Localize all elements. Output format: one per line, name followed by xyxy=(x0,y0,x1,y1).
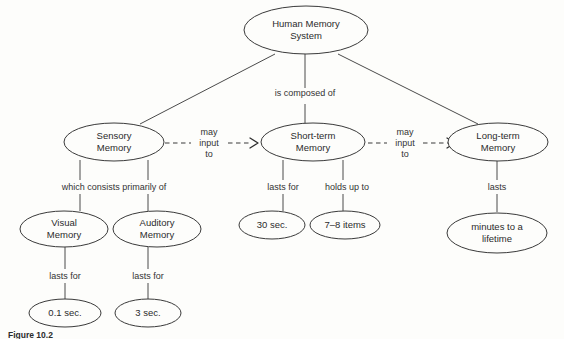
node-sensory-memory[interactable]: Sensory Memory xyxy=(64,123,164,161)
svg-text:7–8 items: 7–8 items xyxy=(324,219,365,230)
node-auditory-duration[interactable]: 3 sec. xyxy=(115,299,181,327)
svg-text:Memory: Memory xyxy=(296,142,331,153)
arrowhead-to-shortterm xyxy=(250,138,258,148)
svg-text:Short-term: Short-term xyxy=(291,130,336,141)
svg-text:may: may xyxy=(200,127,218,137)
svg-text:input: input xyxy=(395,138,415,148)
svg-text:Auditory: Auditory xyxy=(140,217,175,228)
svg-text:3 sec.: 3 sec. xyxy=(135,307,160,318)
figure-caption: Figure 10.2 xyxy=(8,330,53,339)
svg-text:Long-term: Long-term xyxy=(476,130,519,141)
svg-text:Memory: Memory xyxy=(97,142,132,153)
svg-text:to: to xyxy=(401,149,409,159)
svg-text:Human Memory: Human Memory xyxy=(272,18,340,29)
node-visual-memory[interactable]: Visual Memory xyxy=(20,211,108,247)
svg-text:Memory: Memory xyxy=(481,142,516,153)
svg-text:System: System xyxy=(290,30,322,41)
svg-text:0.1 sec.: 0.1 sec. xyxy=(48,307,81,318)
node-auditory-memory[interactable]: Auditory Memory xyxy=(113,211,201,247)
node-human-memory-system[interactable]: Human Memory System xyxy=(244,6,368,54)
svg-text:to: to xyxy=(205,149,213,159)
edge-label-lasts-for-short-term: lasts for xyxy=(267,182,299,192)
edge-label-lasts-for-auditory: lasts for xyxy=(132,271,164,281)
svg-text:may: may xyxy=(396,127,414,137)
edge-label-is-composed-of: is composed of xyxy=(275,88,336,98)
svg-text:Memory: Memory xyxy=(140,229,175,240)
svg-text:lifetime: lifetime xyxy=(482,233,512,244)
svg-text:30 sec.: 30 sec. xyxy=(257,219,288,230)
svg-text:Visual: Visual xyxy=(51,217,77,228)
edge-label-lasts-long-term: lasts xyxy=(488,182,507,192)
edge-label-may-input-to-2: may input to xyxy=(395,127,415,159)
edge-label-may-input-to-1: may input to xyxy=(199,127,219,159)
concept-map-figure: is composed of which consists primarily … xyxy=(0,0,564,339)
node-long-term-memory[interactable]: Long-term Memory xyxy=(448,123,548,161)
svg-text:minutes to a: minutes to a xyxy=(471,221,523,232)
svg-text:Memory: Memory xyxy=(47,229,82,240)
svg-text:Sensory: Sensory xyxy=(97,130,132,141)
edge-label-lasts-for-visual: lasts for xyxy=(49,271,81,281)
node-long-term-duration[interactable]: minutes to a lifetime xyxy=(447,213,547,253)
node-visual-duration[interactable]: 0.1 sec. xyxy=(29,299,101,327)
node-short-term-capacity[interactable]: 7–8 items xyxy=(310,211,380,239)
link-root-to-longterm xyxy=(338,54,478,124)
link-root-to-sensory xyxy=(140,54,275,124)
node-short-term-memory[interactable]: Short-term Memory xyxy=(261,123,365,161)
svg-text:input: input xyxy=(199,138,219,148)
diagram-canvas: is composed of which consists primarily … xyxy=(0,0,564,339)
edge-label-holds-up-to: holds up to xyxy=(325,182,369,192)
edge-label-which-consists-primarily-of: which consists primarily of xyxy=(61,182,167,192)
node-short-term-duration[interactable]: 30 sec. xyxy=(239,211,305,239)
